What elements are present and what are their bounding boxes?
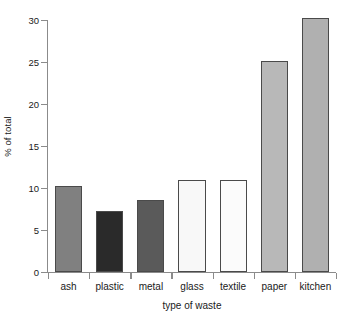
y-tick-15 [41, 146, 48, 147]
y-tick-label-15: 15 [0, 141, 39, 152]
x-tick-1 [89, 273, 90, 279]
bar-glass [178, 180, 205, 272]
x-label-glass: glass [180, 281, 203, 292]
x-label-plastic: plastic [96, 281, 124, 292]
y-tick-label-25: 25 [0, 57, 39, 68]
x-label-metal: metal [139, 281, 163, 292]
bar-kitchen [302, 18, 329, 272]
bar-textile [220, 180, 247, 272]
bar-metal [137, 200, 164, 272]
x-label-ash: ash [61, 281, 77, 292]
y-tick-30 [41, 20, 48, 21]
y-tick-label-10: 10 [0, 183, 39, 194]
x-tick-0 [48, 273, 49, 279]
y-tick-label-30: 30 [0, 15, 39, 26]
bar-paper [261, 61, 288, 272]
y-tick-5 [41, 230, 48, 231]
x-tick-3 [171, 273, 172, 279]
x-tick-2 [130, 273, 131, 279]
bar-plastic [96, 211, 123, 272]
y-tick-label-20: 20 [0, 99, 39, 110]
plot-area [48, 20, 336, 272]
x-tick-5 [254, 273, 255, 279]
x-label-paper: paper [262, 281, 288, 292]
y-tick-20 [41, 104, 48, 105]
x-tick-6 [295, 273, 296, 279]
y-tick-10 [41, 188, 48, 189]
bar-chart-figure: % of total 051015202530 ashplasticmetalg… [0, 0, 343, 326]
bar-ash [55, 186, 82, 273]
x-label-kitchen: kitchen [300, 281, 332, 292]
x-label-textile: textile [220, 281, 246, 292]
x-tick-7 [336, 273, 337, 279]
y-tick-0 [41, 272, 48, 273]
y-tick-label-5: 5 [0, 225, 39, 236]
x-tick-4 [213, 273, 214, 279]
x-axis-title: type of waste [48, 300, 336, 311]
y-tick-25 [41, 62, 48, 63]
y-tick-label-0: 0 [0, 267, 39, 278]
